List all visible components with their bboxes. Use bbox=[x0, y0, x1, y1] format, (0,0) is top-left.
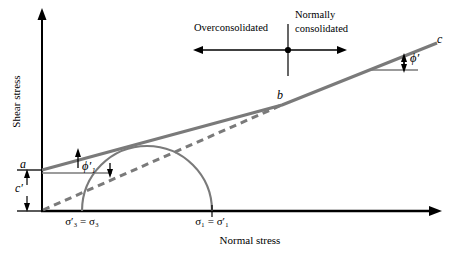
phi-label: ϕ′ bbox=[410, 52, 419, 65]
point-a-label: a bbox=[20, 158, 26, 170]
phi1-label: ϕ′₁ bbox=[82, 160, 96, 173]
failure-envelope bbox=[42, 43, 437, 170]
overconsolidated-label: Overconsolidated bbox=[194, 23, 268, 34]
x-axis-arrowhead bbox=[429, 206, 442, 216]
x-axis-label: Normal stress bbox=[200, 235, 300, 246]
normally-consolidated-label-line1: Normally bbox=[295, 10, 335, 21]
phi-arrowhead-down bbox=[401, 64, 407, 73]
sigma3-label: σ′₃ = σ₃ bbox=[65, 216, 99, 227]
mohr-circle bbox=[82, 146, 212, 211]
sigma1-label: σ₁ = σ′₁ bbox=[195, 216, 229, 227]
cohesion-label: c′ bbox=[15, 182, 23, 194]
normally-consolidated-arrowhead bbox=[337, 46, 347, 54]
normally-consolidated-label-line2: consolidated bbox=[295, 24, 348, 35]
point-c-label: c bbox=[437, 33, 442, 45]
point-b-label: b bbox=[277, 89, 283, 101]
mohr-coulomb-diagram: Shear stress Normal stress Overconsolida… bbox=[0, 0, 451, 264]
y-axis-arrowhead bbox=[38, 8, 47, 20]
phi1-arrowhead-up bbox=[75, 148, 81, 157]
overconsolidated-arrowhead bbox=[193, 46, 203, 54]
y-axis-label: Shear stress bbox=[11, 59, 22, 145]
